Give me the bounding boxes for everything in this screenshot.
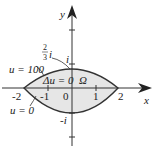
laplace-equation: Δu = 0 (42, 74, 74, 86)
fraction-denominator: 3 (43, 53, 47, 62)
fraction-i: i (49, 48, 52, 60)
diagram-canvas: y x -2 -1 0 1 2 i -i Δu = 0 Ω u = 100 u … (0, 0, 158, 148)
fraction-numerator: 2 (43, 43, 47, 52)
tick-label-neg-i: -i (60, 114, 67, 126)
lower-boundary-label: u = 0 (10, 104, 34, 116)
x-axis-label: x (143, 94, 149, 106)
tick-label-0: 0 (63, 90, 69, 102)
region-label: Ω (79, 74, 87, 86)
y-axis-label: y (59, 8, 65, 20)
tick-label-i: i (66, 53, 69, 65)
tick-label-2: 2 (118, 90, 124, 102)
tick-label-neg1: -1 (40, 90, 49, 102)
tick-label-neg2: -2 (12, 90, 21, 102)
tick-label-1: 1 (93, 90, 99, 102)
upper-boundary-label: u = 100 (9, 63, 44, 75)
